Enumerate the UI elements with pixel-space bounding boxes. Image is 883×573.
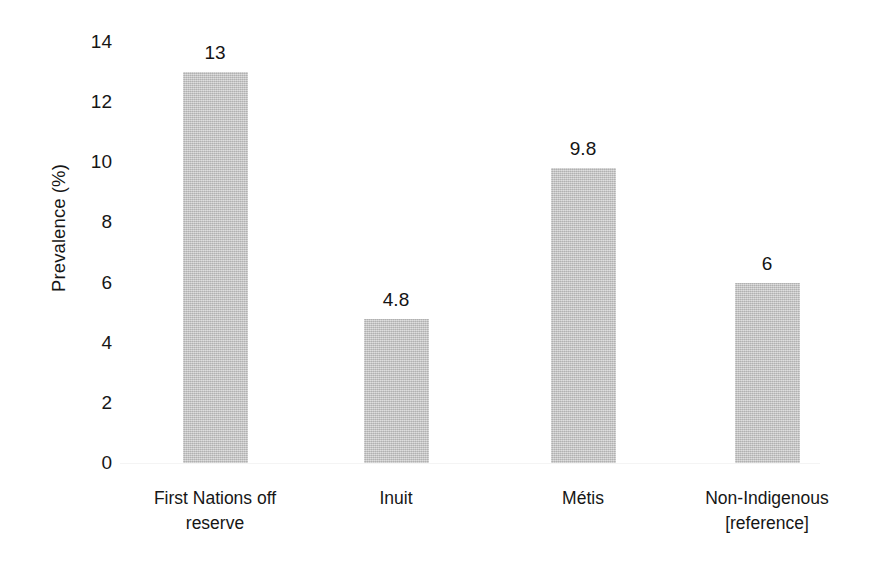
y-axis-tick-label: 0 (52, 452, 112, 474)
y-axis-tick-label: 2 (52, 392, 112, 414)
axis-baseline (120, 463, 820, 464)
bar (551, 168, 616, 463)
bar-chart-figure: Prevalence (%) 0246810121413First Nation… (0, 0, 883, 573)
x-axis-category-label: Non-Indigenous [reference] (652, 486, 882, 536)
plot-area: 0246810121413First Nations off reserve4.… (0, 0, 883, 573)
y-axis-tick-label: 8 (52, 211, 112, 233)
bar-value-label: 6 (762, 253, 773, 275)
bar (183, 72, 248, 463)
bar-value-label: 9.8 (570, 138, 596, 160)
bar (735, 283, 800, 463)
y-axis-tick-label: 14 (52, 31, 112, 53)
bar-value-label: 13 (204, 42, 225, 64)
y-axis-tick-label: 6 (52, 272, 112, 294)
bar-value-label: 4.8 (383, 289, 409, 311)
y-axis-tick-label: 12 (52, 91, 112, 113)
y-axis-tick-label: 4 (52, 332, 112, 354)
bar (364, 319, 429, 463)
y-axis-tick-label: 10 (52, 151, 112, 173)
